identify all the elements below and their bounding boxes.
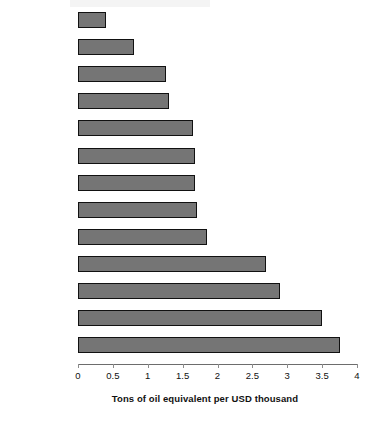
x-tick-mark xyxy=(252,364,253,368)
x-tick-mark xyxy=(113,364,114,368)
bar xyxy=(78,229,207,245)
bar xyxy=(78,12,106,28)
bar xyxy=(78,175,195,191)
x-tick-mark xyxy=(218,364,219,368)
plot-area: OECD EuropeHungaryPolandBelarusBulgariaE… xyxy=(78,8,357,363)
bar xyxy=(78,337,340,353)
bar xyxy=(78,39,134,55)
horizontal-bar-chart: OECD EuropeHungaryPolandBelarusBulgariaE… xyxy=(0,0,374,423)
scan-artifact xyxy=(70,0,210,7)
bar xyxy=(78,148,195,164)
x-tick-label: 4 xyxy=(337,370,374,381)
bar xyxy=(78,310,322,326)
bar xyxy=(78,120,193,136)
x-tick-mark xyxy=(183,364,184,368)
bar xyxy=(78,256,266,272)
bar xyxy=(78,66,166,82)
x-tick-mark xyxy=(287,364,288,368)
x-tick-mark xyxy=(148,364,149,368)
bar xyxy=(78,202,197,218)
x-tick-mark xyxy=(322,364,323,368)
bar xyxy=(78,93,169,109)
bar xyxy=(78,283,280,299)
x-tick-mark xyxy=(357,364,358,368)
x-tick-mark xyxy=(78,364,79,368)
x-axis-title: Tons of oil equivalent per USD thousand xyxy=(0,393,374,404)
